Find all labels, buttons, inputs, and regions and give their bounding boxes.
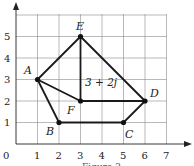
y-tick-5: 5 (4, 31, 10, 42)
label-e: E (75, 20, 84, 33)
point-f (78, 98, 83, 103)
label-c: C (125, 128, 134, 141)
y-tick-1: 1 (4, 117, 10, 128)
point-a (35, 77, 40, 82)
axes (13, 2, 192, 147)
label-f: F (66, 104, 75, 117)
x-tick-6: 6 (142, 150, 148, 161)
x-tick-1: 1 (34, 150, 40, 161)
annotation-3-plus-2j: 3 + 2j (85, 76, 118, 88)
x-tick-0: 0 (3, 150, 9, 161)
edge-d-c (124, 101, 146, 123)
figure-caption: Figure 3 (82, 162, 121, 166)
x-tick-2: 2 (56, 150, 62, 161)
label-b: B (45, 125, 54, 138)
label-a: A (23, 64, 32, 77)
point-e (78, 34, 83, 39)
complex-plane-diagram: 0 1 2 3 4 5 6 7 1 2 3 4 5 A B C D E (0, 0, 194, 166)
x-tick-7: 7 (163, 150, 169, 161)
point-c (121, 120, 126, 125)
label-d: D (149, 87, 159, 100)
y-tick-3: 3 (4, 74, 10, 85)
x-tick-3: 3 (77, 150, 83, 161)
point-d (142, 98, 147, 103)
y-tick-2: 2 (4, 96, 10, 107)
edge-e-d (81, 37, 146, 102)
x-tick-5: 5 (120, 150, 126, 161)
x-tick-labels: 0 1 2 3 4 5 6 7 (3, 150, 169, 161)
point-b (56, 120, 61, 125)
x-tick-4: 4 (99, 150, 105, 161)
y-axis-arrow-icon (13, 2, 19, 10)
x-axis-arrow-icon (184, 141, 192, 147)
y-tick-labels: 1 2 3 4 5 (4, 31, 10, 128)
y-tick-4: 4 (4, 53, 10, 64)
